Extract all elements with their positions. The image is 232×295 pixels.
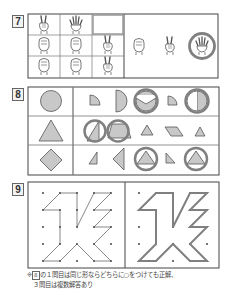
blank-answer-cell [93,15,123,34]
problem-7 [28,14,218,78]
problem-8 [28,87,219,175]
worksheet-figure [0,0,232,295]
problem-9 [28,182,219,268]
footnote-line-2: ３問目は複数解答あり [33,280,93,289]
problem-reference-box: 8 [32,271,40,280]
footnote-line-1: ※8の１問目は同じ形ならどちらに○をつけても正解、 [27,270,177,280]
target-circle [41,91,62,112]
